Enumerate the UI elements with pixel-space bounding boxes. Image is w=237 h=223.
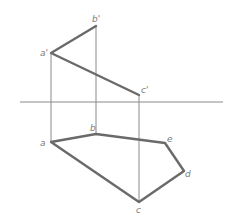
top-view-polygon: [51, 134, 184, 202]
point-label-a: a: [40, 138, 46, 148]
point-label-c1: c': [141, 85, 148, 95]
projection-lines: [51, 26, 139, 202]
point-label-d: d: [185, 169, 191, 179]
point-label-b1: b': [92, 14, 100, 24]
point-label-e: e: [167, 134, 173, 144]
point-label-a1: a': [40, 48, 48, 58]
front-view-polyline: [51, 26, 139, 95]
point-label-c: c: [136, 205, 141, 215]
projection-diagram: a'b'c'abedc: [0, 0, 237, 223]
point-label-b: b: [90, 123, 96, 133]
